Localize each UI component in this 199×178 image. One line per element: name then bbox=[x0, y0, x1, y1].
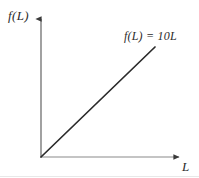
x-axis-label: L bbox=[182, 160, 189, 173]
function-line bbox=[41, 47, 155, 157]
bottom-rule bbox=[0, 176, 199, 177]
graph-canvas bbox=[0, 0, 199, 178]
function-graph-figure: f(L) L f(L) = 10L bbox=[0, 0, 199, 178]
equation-annotation: f(L) = 10L bbox=[124, 30, 177, 42]
y-axis-label: f(L) bbox=[8, 9, 29, 22]
